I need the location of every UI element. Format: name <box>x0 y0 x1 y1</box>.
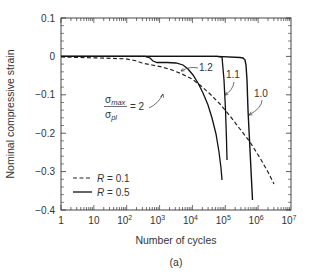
x-tick-1e4: 104 <box>183 214 198 226</box>
x-tick-1e6: 106 <box>249 214 264 226</box>
label-1.1: 1.1 <box>226 69 240 80</box>
plot-frame <box>61 18 291 210</box>
x-tick-1e5: 105 <box>216 214 231 226</box>
sigma-pl-label: σpl <box>105 109 117 122</box>
legend-solid-label: R = 0.5 <box>97 187 130 198</box>
y-tick-neg0.2: −0.2 <box>35 128 55 139</box>
annotation-1.1: 1.1 <box>225 69 240 95</box>
y-tick-0: 0 <box>49 51 55 62</box>
arrow-1.0 <box>249 100 262 115</box>
y-minor-ticks <box>61 26 291 203</box>
x-tick-1e3: 103 <box>150 214 165 226</box>
y-axis-label: Nominal compressive strain <box>4 49 16 178</box>
x-tick-1e2: 102 <box>117 214 132 226</box>
x-axis-label: Number of cycles <box>135 234 216 246</box>
y-tick-neg0.3: −0.3 <box>35 166 55 177</box>
x-tick-labels: 1 10 102 103 104 105 106 107 <box>58 214 296 226</box>
x-tick-1e7: 107 <box>281 214 296 226</box>
legend-dashed-label: R = 0.1 <box>97 173 130 184</box>
y-ticks <box>61 18 291 210</box>
x-tick-10: 10 <box>88 215 100 226</box>
x-tick-1: 1 <box>58 215 64 226</box>
annotation-1.0: 1.0 <box>249 88 268 115</box>
y-tick-neg0.1: −0.1 <box>35 89 55 100</box>
sigma-max-label: σmax <box>105 94 126 107</box>
series-r01-sigma2 <box>61 57 274 184</box>
legend: R = 0.1 R = 0.5 <box>73 173 130 198</box>
figure-label: (a) <box>170 256 183 268</box>
annotation-sigma-2: σmax σpl = 2 <box>104 94 164 122</box>
equals-2-label: = 2 <box>130 101 145 112</box>
y-tick-0.1: 0.1 <box>41 13 55 24</box>
y-tick-labels: 0.1 0 −0.1 −0.2 −0.3 −0.4 <box>35 13 55 216</box>
label-1.0: 1.0 <box>254 88 268 99</box>
label-1.2: 1.2 <box>199 62 213 73</box>
series-r05-sigma1.2 <box>61 56 222 180</box>
x-ticks <box>61 18 289 210</box>
fatigue-strain-chart: 0.1 0 −0.1 −0.2 −0.3 −0.4 1 10 102 103 1… <box>0 0 312 275</box>
y-tick-neg0.4: −0.4 <box>35 205 55 216</box>
